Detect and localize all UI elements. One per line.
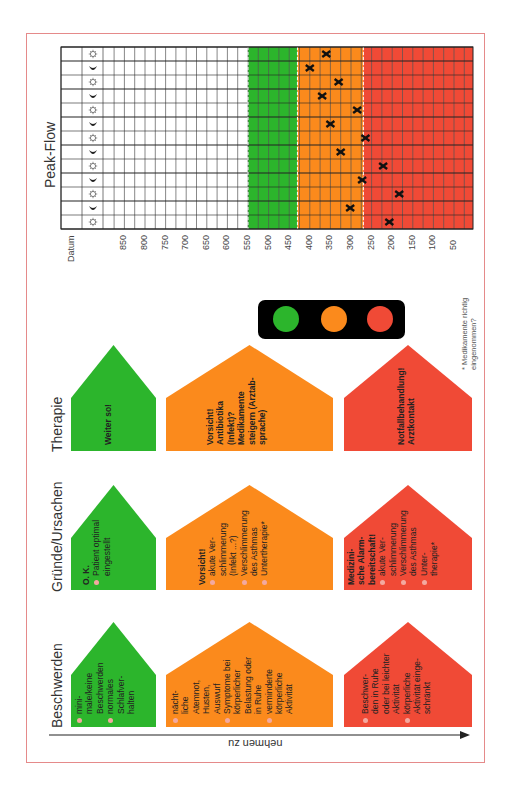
arrow-label: nehmen zu [228, 738, 282, 750]
arrow [0, 0, 510, 797]
